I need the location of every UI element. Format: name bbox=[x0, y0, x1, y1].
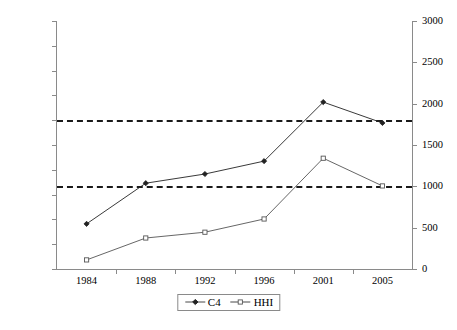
right-tick-mark bbox=[413, 62, 417, 63]
x-tick-label: 1984 bbox=[76, 276, 97, 287]
plot-area bbox=[57, 21, 412, 269]
series-plot bbox=[57, 21, 412, 269]
data-point-c4 bbox=[143, 181, 148, 186]
left-tick-mark bbox=[52, 145, 56, 146]
left-tick-mark bbox=[52, 95, 56, 96]
x-tick-mark bbox=[175, 270, 176, 274]
right-tick-label: 3000 bbox=[422, 16, 443, 27]
right-tick-mark bbox=[413, 145, 417, 146]
right-tick-label: 0 bbox=[422, 264, 427, 275]
data-point-hhi bbox=[144, 236, 148, 240]
x-tick-label: 1996 bbox=[254, 276, 275, 287]
left-tick-mark bbox=[52, 269, 56, 270]
data-point-c4 bbox=[202, 171, 207, 176]
series-line-c4 bbox=[87, 102, 383, 224]
left-tick-mark bbox=[52, 46, 56, 47]
data-point-hhi bbox=[380, 184, 384, 188]
filled-diamond-icon bbox=[184, 297, 206, 307]
chart-legend: C4HHI bbox=[177, 294, 280, 311]
right-tick-mark bbox=[413, 21, 417, 22]
chart-container: 0.010.020.030.040.050.060.070.080.090.01… bbox=[0, 0, 457, 330]
x-tick-label: 1988 bbox=[135, 276, 156, 287]
x-tick-mark bbox=[235, 270, 236, 274]
right-tick-mark bbox=[413, 104, 417, 105]
legend-entry-hhi[interactable]: HHI bbox=[230, 296, 274, 308]
data-point-hhi bbox=[262, 217, 266, 221]
data-point-hhi bbox=[203, 230, 207, 234]
left-tick-mark bbox=[52, 170, 56, 171]
legend-entry-c4[interactable]: C4 bbox=[184, 296, 221, 308]
left-tick-mark bbox=[52, 195, 56, 196]
data-point-hhi bbox=[321, 156, 325, 160]
x-tick-label: 2005 bbox=[372, 276, 393, 287]
left-tick-mark bbox=[52, 244, 56, 245]
left-tick-mark bbox=[52, 219, 56, 220]
x-tick-mark bbox=[116, 270, 117, 274]
x-tick-label: 2001 bbox=[313, 276, 334, 287]
left-tick-mark bbox=[52, 21, 56, 22]
x-tick-label: 1992 bbox=[194, 276, 215, 287]
right-tick-label: 2500 bbox=[422, 57, 443, 68]
legend-label: HHI bbox=[254, 296, 274, 308]
left-tick-mark bbox=[52, 71, 56, 72]
right-tick-label: 500 bbox=[422, 223, 438, 234]
right-tick-label: 2000 bbox=[422, 99, 443, 110]
right-tick-label: 1500 bbox=[422, 140, 443, 151]
x-tick-mark bbox=[294, 270, 295, 274]
right-tick-mark bbox=[413, 228, 417, 229]
data-point-c4 bbox=[84, 221, 89, 226]
series-line-hhi bbox=[87, 158, 383, 260]
right-tick-mark bbox=[413, 269, 417, 270]
x-tick-mark bbox=[353, 270, 354, 274]
data-point-hhi bbox=[84, 258, 88, 262]
data-point-c4 bbox=[380, 120, 385, 125]
left-tick-mark bbox=[52, 120, 56, 121]
legend-label: C4 bbox=[208, 296, 221, 308]
open-square-icon bbox=[230, 297, 252, 307]
right-tick-label: 1000 bbox=[422, 181, 443, 192]
right-tick-mark bbox=[413, 186, 417, 187]
